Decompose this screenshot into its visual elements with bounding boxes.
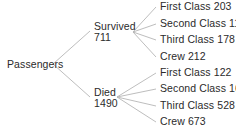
branch-node-survived: Survived 711 [94,21,136,43]
leaf-node: Second Class 167 [160,83,236,94]
branch-value: 711 [94,32,136,43]
tree-diagram: Passengers Survived 711 Died 1490 First … [0,0,236,131]
root-node-passengers: Passengers [7,59,63,70]
leaf-node: Second Class 118 [160,18,236,29]
leaf-node: Third Class 528 [160,100,235,111]
branch-node-died: Died 1490 [94,87,118,109]
branch-value: 1490 [94,98,118,109]
leaf-node: First Class 203 [160,1,232,12]
leaf-node: Third Class 178 [160,34,235,45]
leaf-node: Crew 673 [160,116,206,127]
leaf-node: First Class 122 [160,67,232,78]
leaf-node: Crew 212 [160,51,206,62]
